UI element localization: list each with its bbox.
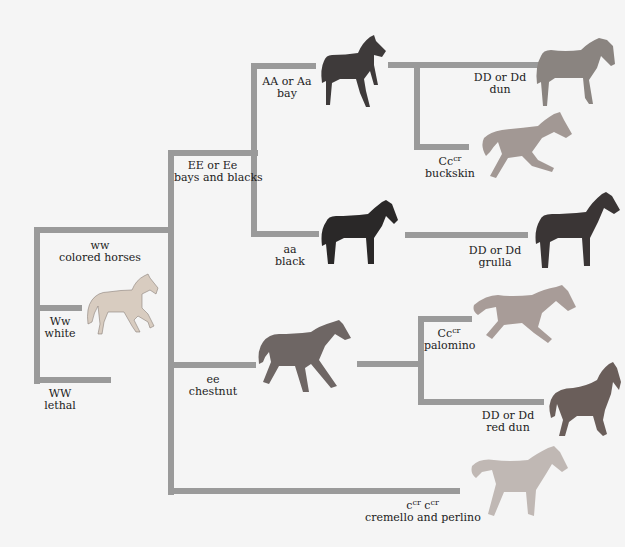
branch-grulla-horizontal xyxy=(405,232,528,238)
label-dun: DD or Dd dun xyxy=(470,72,530,96)
label-palomino: Cccr palomino xyxy=(424,328,474,352)
label-bay: AA or Aa bay xyxy=(257,76,317,100)
phenotype-palomino: palomino xyxy=(424,340,474,352)
branch-buckskin-horizontal xyxy=(414,144,469,150)
phenotype-black: black xyxy=(270,256,310,268)
branch-bay-horizontal xyxy=(251,63,316,69)
label-chestnut: ee chestnut xyxy=(178,374,248,398)
label-WW: WW lethal xyxy=(40,388,80,412)
branch-palomino-horizontal xyxy=(418,316,472,322)
branch-chestnut-out xyxy=(357,361,421,367)
label-E: EE or Ee bays and blacks xyxy=(174,160,251,184)
branch-bay-out xyxy=(388,62,541,68)
branch-black-horizontal xyxy=(251,231,319,237)
branch-reddun-horizontal xyxy=(418,399,544,405)
horse-chestnut-icon xyxy=(255,320,355,400)
branch-bay-vertical xyxy=(414,62,420,150)
phenotype-dun: dun xyxy=(470,84,530,96)
label-ww: ww colored horses xyxy=(40,240,160,264)
phenotype-Ww: white xyxy=(40,328,80,340)
phenotype-bay: bay xyxy=(257,88,317,100)
phenotype-chestnut: chestnut xyxy=(178,386,248,398)
phenotype-reddun: red dun xyxy=(478,422,538,434)
label-Ww: Ww white xyxy=(40,316,80,340)
horse-dun-icon xyxy=(535,36,620,108)
phenotype-E: bays and blacks xyxy=(174,172,251,184)
branch-ww-horizontal xyxy=(34,227,174,233)
main-vertical xyxy=(168,150,174,495)
horse-white-icon xyxy=(82,272,160,344)
label-buckskin: Cccr buckskin xyxy=(420,156,480,180)
horse-bay-icon xyxy=(318,35,388,110)
label-black: aa black xyxy=(270,244,310,268)
branch-E-horizontal xyxy=(168,150,258,156)
branch-cremello-horizontal xyxy=(168,488,460,494)
label-reddun: DD or Dd red dun xyxy=(478,410,538,434)
horse-buckskin-icon xyxy=(480,110,575,186)
horse-black-icon xyxy=(320,198,400,268)
horse-palomino-icon xyxy=(472,283,580,351)
label-grulla: DD or Dd grulla xyxy=(465,245,525,269)
phenotype-WW: lethal xyxy=(40,400,80,412)
horse-cremello-icon xyxy=(470,444,570,524)
branch-Ww-horizontal xyxy=(34,305,82,311)
horse-reddun-icon xyxy=(547,360,622,440)
label-cremello: ccr ccr cremello and perlino xyxy=(365,500,480,524)
phenotype-cremello: cremello and perlino xyxy=(365,512,480,524)
phenotype-grulla: grulla xyxy=(465,257,525,269)
branch-chestnut-horizontal xyxy=(168,362,256,368)
phenotype-buckskin: buckskin xyxy=(420,168,480,180)
horse-grulla-icon xyxy=(534,192,622,272)
branch-WW-horizontal xyxy=(34,377,111,383)
phenotype-ww: colored horses xyxy=(40,252,160,264)
